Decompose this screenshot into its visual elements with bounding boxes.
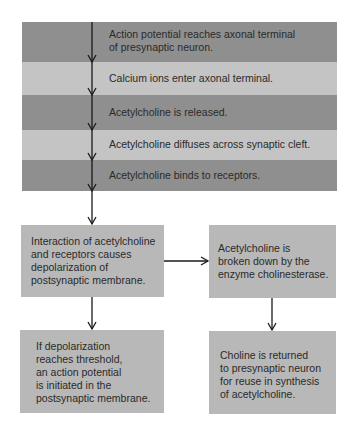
arrow-connectors: [0, 0, 352, 431]
